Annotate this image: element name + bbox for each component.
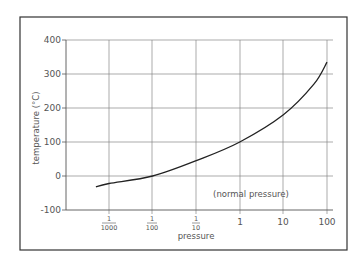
x-tick-100: 100 xyxy=(318,217,335,227)
y-tick-100: 100 xyxy=(44,137,61,147)
svg-text:1: 1 xyxy=(150,215,154,223)
grid xyxy=(66,40,333,214)
y-tick-400: 400 xyxy=(44,35,61,45)
normal-pressure-annotation: (normal pressure) xyxy=(213,189,289,199)
y-axis-label: temperature (°C) xyxy=(31,92,41,165)
chart-frame xyxy=(20,17,347,250)
svg-text:1000: 1000 xyxy=(101,224,118,232)
y-tick-minus-100: -100 xyxy=(41,205,62,215)
chart: 400 300 200 100 0 -100 temperature (°C) … xyxy=(0,0,364,265)
x-tick-10: 10 xyxy=(277,217,289,227)
y-tick-200: 200 xyxy=(44,103,61,113)
x-tick-labels: 1 1000 1 100 1 10 1 10 100 xyxy=(101,215,336,232)
svg-text:1: 1 xyxy=(194,215,198,223)
x-tick-1-1000: 1 1000 xyxy=(101,215,118,232)
y-tick-labels: 400 300 200 100 0 -100 xyxy=(41,35,62,215)
x-tick-1-10: 1 10 xyxy=(192,215,200,232)
x-tick-1: 1 xyxy=(237,217,243,227)
y-tick-300: 300 xyxy=(44,69,61,79)
x-tick-1-100: 1 100 xyxy=(146,215,158,232)
x-axis-label: pressure xyxy=(178,231,215,241)
svg-text:100: 100 xyxy=(146,224,158,232)
svg-text:1: 1 xyxy=(107,215,111,223)
y-tick-0: 0 xyxy=(55,171,61,181)
boiling-point-curve xyxy=(96,62,327,187)
